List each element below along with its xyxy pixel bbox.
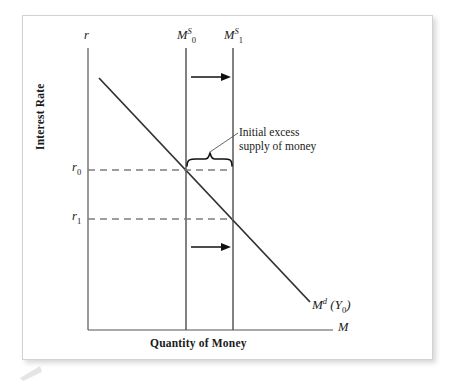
r1-subscript: 1 xyxy=(77,216,81,226)
money-supply-0-subscript: 0 xyxy=(192,35,196,45)
y-axis-title: Interest Rate xyxy=(34,83,48,150)
money-demand-label: Md (Y0) xyxy=(312,296,351,315)
figure-container: Interest Rate Quantity of Money r M MS0 … xyxy=(0,0,457,389)
money-demand-paren-open: ( xyxy=(327,297,335,312)
money-supply-1-subscript: 1 xyxy=(239,35,243,45)
money-supply-1-base: M xyxy=(224,28,234,42)
x-axis-symbol: M xyxy=(338,320,348,335)
x-axis-title: Quantity of Money xyxy=(150,337,247,351)
upper-shift-arrow-icon xyxy=(191,73,231,81)
money-demand-curve xyxy=(99,78,310,302)
money-demand-base: M xyxy=(312,297,323,312)
r0-subscript: 0 xyxy=(77,167,81,177)
r0-tick-label: r0 xyxy=(72,160,81,177)
annotation-line-2: supply of money xyxy=(239,140,316,154)
lower-shift-arrow-icon xyxy=(191,243,231,251)
excess-supply-annotation: Initial excess supply of money xyxy=(239,126,316,153)
money-supply-1-label: MS1 xyxy=(224,26,243,45)
chart-canvas xyxy=(0,0,457,389)
money-demand-arg-base: Y xyxy=(335,297,342,312)
money-supply-0-label: MS0 xyxy=(177,26,196,45)
r1-tick-label: r1 xyxy=(72,209,81,226)
y-axis-symbol: r xyxy=(84,28,89,43)
excess-supply-brace-icon xyxy=(187,153,232,166)
money-demand-paren-close: ) xyxy=(346,297,350,312)
page-artifact xyxy=(20,366,42,381)
money-supply-0-base: M xyxy=(177,28,187,42)
annotation-line-1: Initial excess xyxy=(239,126,316,140)
annotation-leader-line xyxy=(210,133,238,152)
